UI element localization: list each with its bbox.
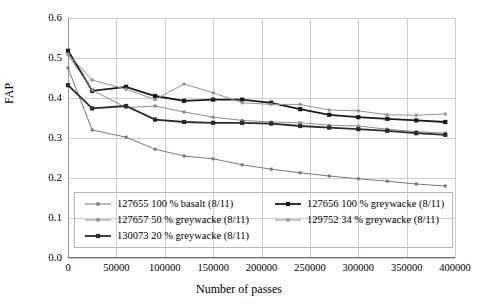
x-axis-tick-label: 200000 bbox=[246, 262, 278, 273]
data-point-marker bbox=[212, 116, 215, 119]
x-axis-title: Number of passes bbox=[0, 282, 478, 297]
data-point-marker bbox=[414, 118, 418, 122]
data-point-marker bbox=[91, 79, 94, 82]
legend: 127655 100 % basalt (8/11)127656 100 % g… bbox=[74, 192, 453, 248]
data-point-marker bbox=[90, 106, 94, 110]
data-point-marker bbox=[67, 67, 70, 70]
data-point-marker bbox=[444, 113, 447, 116]
data-point-marker bbox=[443, 120, 447, 124]
data-point-marker bbox=[357, 177, 360, 180]
data-point-marker bbox=[444, 185, 447, 188]
data-point-marker bbox=[356, 115, 360, 119]
data-point-marker bbox=[327, 126, 331, 130]
data-point-marker bbox=[154, 98, 157, 101]
data-point-marker bbox=[357, 125, 360, 128]
series-line bbox=[66, 83, 448, 137]
x-axis-tick-label: 300000 bbox=[343, 262, 375, 273]
data-point-marker bbox=[154, 105, 157, 108]
data-point-marker bbox=[212, 91, 215, 94]
data-point-marker bbox=[124, 104, 128, 108]
data-point-marker bbox=[299, 121, 302, 124]
legend-label: 127657 50 % greywacke (8/11) bbox=[117, 214, 249, 226]
legend-swatch-icon bbox=[83, 214, 113, 226]
data-point-marker bbox=[327, 113, 331, 117]
data-point-marker bbox=[125, 136, 128, 139]
x-axis-tick-label: 400000 bbox=[439, 262, 471, 273]
legend-label: 130073 20 % greywacke (8/11) bbox=[117, 230, 249, 242]
data-point-marker bbox=[211, 98, 215, 102]
data-point-marker bbox=[67, 53, 70, 56]
data-point-marker bbox=[153, 94, 157, 98]
data-point-marker bbox=[385, 129, 389, 133]
legend-label: 127655 100 % basalt (8/11) bbox=[117, 198, 233, 210]
data-point-marker bbox=[182, 99, 186, 103]
data-point-marker bbox=[269, 122, 273, 126]
data-point-marker bbox=[328, 109, 331, 112]
data-point-marker bbox=[153, 118, 157, 122]
legend-label: 129752 34 % greywacke (8/11) bbox=[307, 214, 439, 226]
x-axis-tick-label: 250000 bbox=[294, 262, 326, 273]
series-line bbox=[66, 49, 448, 124]
data-point-marker bbox=[415, 114, 418, 117]
data-point-marker bbox=[241, 163, 244, 166]
legend-swatch-icon bbox=[273, 214, 303, 226]
data-point-marker bbox=[270, 168, 273, 171]
data-point-marker bbox=[357, 109, 360, 112]
data-point-marker bbox=[183, 155, 186, 158]
data-point-marker bbox=[66, 49, 70, 53]
data-point-marker bbox=[183, 111, 186, 114]
x-axis-tick-label: 150000 bbox=[197, 262, 229, 273]
data-point-marker bbox=[240, 121, 244, 125]
x-axis-tick-label: 50000 bbox=[103, 262, 129, 273]
series-layer bbox=[0, 0, 478, 306]
data-point-marker bbox=[415, 183, 418, 186]
data-point-marker bbox=[241, 101, 244, 104]
data-point-marker bbox=[443, 133, 447, 137]
data-point-marker bbox=[299, 103, 302, 106]
fap-vs-passes-chart: 0.00.10.20.30.40.50.6 FAP 05000010000015… bbox=[0, 0, 478, 306]
data-point-marker bbox=[91, 129, 94, 132]
data-point-marker bbox=[91, 89, 94, 92]
data-point-marker bbox=[299, 171, 302, 174]
x-axis-tick-label: 0 bbox=[65, 262, 70, 273]
data-point-marker bbox=[270, 103, 273, 106]
data-point-marker bbox=[298, 124, 302, 128]
data-point-marker bbox=[125, 88, 128, 91]
series-line bbox=[67, 67, 447, 188]
data-point-marker bbox=[66, 83, 70, 87]
data-point-marker bbox=[211, 121, 215, 125]
x-axis-tick-label: 350000 bbox=[391, 262, 423, 273]
data-point-marker bbox=[328, 175, 331, 178]
x-axis-tick-label: 100000 bbox=[149, 262, 181, 273]
data-point-marker bbox=[385, 117, 389, 121]
legend-swatch-icon bbox=[83, 198, 113, 210]
data-point-marker bbox=[386, 180, 389, 183]
data-point-marker bbox=[386, 113, 389, 116]
legend-swatch-icon bbox=[83, 230, 113, 242]
data-point-marker bbox=[212, 157, 215, 160]
data-point-marker bbox=[298, 107, 302, 111]
data-point-marker bbox=[182, 120, 186, 124]
legend-swatch-icon bbox=[273, 198, 303, 210]
data-point-marker bbox=[414, 131, 418, 135]
data-point-marker bbox=[356, 127, 360, 131]
data-point-marker bbox=[154, 148, 157, 151]
data-point-marker bbox=[183, 83, 186, 86]
legend-label: 127656 100 % greywacke (8/11) bbox=[307, 198, 444, 210]
data-point-marker bbox=[240, 98, 244, 102]
